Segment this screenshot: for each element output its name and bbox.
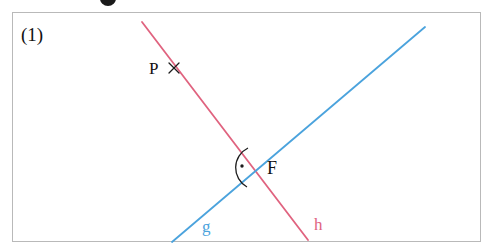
- line-g-label: g: [202, 218, 211, 235]
- line-g: [172, 27, 425, 242]
- line-h: [142, 22, 308, 240]
- point-f-label: F: [267, 159, 277, 177]
- point-p-label: P: [149, 60, 158, 77]
- right-angle-dot-icon: [240, 164, 243, 167]
- line-h-label: h: [314, 216, 323, 233]
- figure-canvas: (1) P F g h: [0, 0, 493, 247]
- geometry-drawing: [0, 0, 493, 247]
- figure-index-label: (1): [21, 25, 43, 44]
